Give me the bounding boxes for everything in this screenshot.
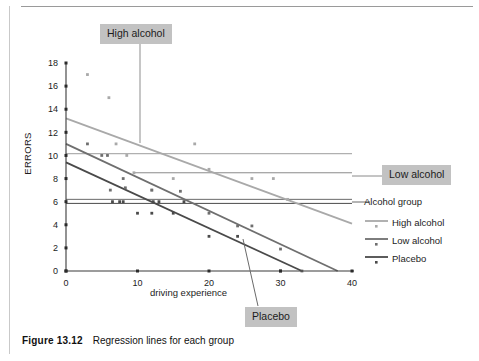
x-tick-label: 10: [132, 278, 142, 288]
figure-caption: Figure 13.12Regression lines for each gr…: [22, 335, 234, 346]
y-tick-label: 2: [53, 243, 58, 253]
y-tick-label: 16: [48, 81, 58, 91]
x-tick-mark: [65, 270, 68, 273]
scatter-point-placebo: [150, 212, 153, 215]
y-tick-mark: [65, 62, 68, 65]
scatter-point-placebo: [158, 200, 161, 203]
callout-low-alcohol: Low alcohol: [382, 165, 451, 185]
y-tick-label: 8: [53, 174, 58, 184]
scatter-point-high-alcohol: [193, 142, 196, 145]
legend-marker-high-alcohol: [375, 225, 378, 228]
scatter-point-low-alcohol: [251, 225, 254, 228]
y-tick-mark: [65, 223, 68, 226]
scatter-point-low-alcohol: [122, 177, 125, 180]
scatter-point-high-alcohol: [125, 154, 128, 157]
scatter-point-high-alcohol: [172, 177, 175, 180]
scatter-point-low-alcohol: [279, 248, 282, 251]
figure-caption-text: Regression lines for each group: [93, 335, 234, 346]
y-tick-mark: [65, 177, 68, 180]
scatter-point-high-alcohol: [286, 198, 289, 201]
callout-placebo: Placebo: [245, 307, 297, 327]
figure-caption-label: Figure 13.12: [22, 335, 83, 346]
x-tick-mark: [351, 270, 354, 273]
scatter-point-high-alcohol: [108, 96, 111, 99]
scatter-point-placebo: [118, 200, 121, 203]
scatter-point-low-alcohol: [208, 212, 211, 215]
scatter-point-placebo: [111, 200, 114, 203]
scatter-point-low-alcohol: [86, 142, 89, 145]
scatter-point-placebo: [172, 212, 175, 215]
legend-item-label-placebo: Placebo: [392, 253, 426, 264]
axes-group: [66, 63, 354, 271]
y-tick-label: 14: [48, 104, 58, 114]
y-tick-mark: [65, 108, 68, 111]
scatter-point-high-alcohol: [115, 142, 118, 145]
regression-line-group: [66, 118, 352, 271]
scatter-point-low-alcohol: [236, 225, 239, 228]
y-tick-label: 12: [48, 128, 58, 138]
x-tick-label: 0: [63, 278, 68, 288]
y-tick-label: 4: [53, 220, 58, 230]
legend-title: Alcohol group: [364, 196, 422, 207]
scatter-point-placebo: [136, 212, 139, 215]
x-axis-title: driving experience: [150, 287, 227, 298]
legend-item-label-high-alcohol: High alcohol: [392, 217, 444, 228]
regression-line-placebo: [66, 162, 302, 271]
scatter-point-placebo: [152, 200, 155, 203]
scatter-point-low-alcohol: [109, 189, 112, 192]
callout-leader-lines: [66, 154, 352, 204]
x-tick-mark: [208, 270, 211, 273]
legend-marker-low-alcohol: [375, 243, 378, 246]
scatter-point-high-alcohol: [133, 171, 136, 174]
x-tick-mark: [136, 270, 139, 273]
scatter-point-low-alcohol: [106, 154, 109, 157]
scatter-point-high-alcohol: [86, 73, 89, 76]
scatter-point-low-alcohol: [100, 154, 103, 157]
scatter-point-placebo: [122, 200, 125, 203]
y-tick-mark: [65, 154, 68, 157]
y-axis-title: ERRORS: [22, 124, 33, 184]
y-tick-mark: [65, 200, 68, 203]
y-tick-mark: [65, 246, 68, 249]
scatter-point-low-alcohol: [124, 186, 127, 189]
figure-page: 024681012141618010203040 High alcohol Lo…: [0, 0, 479, 361]
callout-stem-group: [140, 43, 382, 306]
x-tick-label: 40: [347, 278, 357, 288]
legend-marker-placebo: [375, 261, 378, 264]
y-tick-mark: [65, 85, 68, 88]
scatter-point-high-alcohol: [208, 168, 211, 171]
scatter-point-placebo: [183, 200, 186, 203]
scatter-point-placebo: [208, 235, 211, 238]
y-tick-mark: [65, 131, 68, 134]
y-tick-label: 6: [53, 197, 58, 207]
scatter-point-high-alcohol: [272, 177, 275, 180]
regression-line-high-alcohol: [66, 118, 352, 223]
callout-high-alcohol: High alcohol: [100, 24, 172, 44]
regression-line-low-alcohol: [66, 144, 338, 271]
y-tick-label: 0: [53, 266, 58, 276]
scatter-point-low-alcohol: [179, 190, 182, 193]
legend-marker-group: [365, 221, 388, 264]
legend-item-label-low-alcohol: Low alcohol: [392, 235, 442, 246]
y-tick-label: 10: [48, 151, 58, 161]
x-tick-label: 30: [275, 278, 285, 288]
scatter-point-placebo: [236, 235, 239, 238]
scatter-point-high-alcohol: [251, 177, 254, 180]
y-tick-label: 18: [48, 58, 58, 68]
scatter-point-low-alcohol: [150, 189, 153, 192]
x-tick-mark: [279, 270, 282, 273]
